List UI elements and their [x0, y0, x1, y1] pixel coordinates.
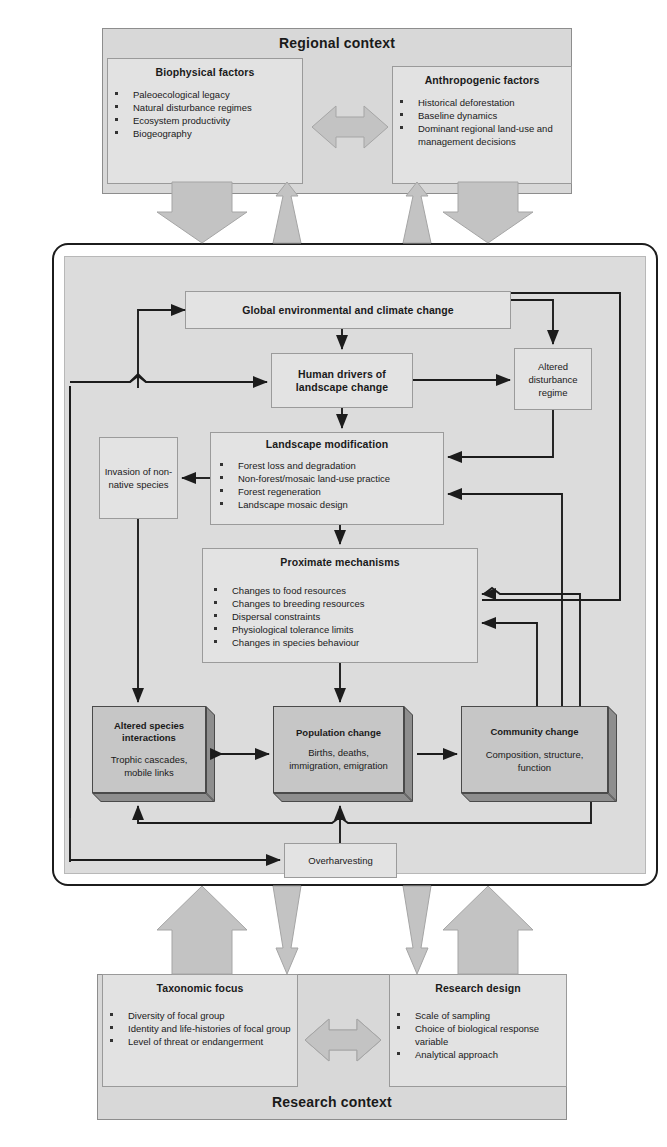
biophysical-factors-heading: Biophysical factors: [107, 66, 303, 79]
anthropogenic-factors-list: Historical deforestation Baseline dynami…: [392, 96, 574, 148]
list-item: Biogeography: [107, 127, 303, 140]
population-change-body: Births, deaths, immigration, emigration: [274, 746, 403, 772]
list-item: Non-forest/mosaic land-use practice: [212, 472, 444, 485]
global-change-box: Global environmental and climate change: [185, 291, 511, 329]
up-block-arrow-bottom-left: [157, 886, 247, 974]
invasion-label: Invasion of non-native species: [100, 465, 177, 491]
list-item: Ecosystem productivity: [107, 114, 303, 127]
landscape-modification-list: Forest loss and degradation Non-forest/m…: [212, 459, 444, 511]
box-bottom-shadow: [461, 793, 617, 802]
diagram-canvas: Regional context Biophysical factors Pal…: [0, 0, 667, 1147]
global-change-label: Global environmental and climate change: [242, 304, 454, 317]
overharvesting-box: Overharvesting: [284, 843, 397, 878]
biophysical-factors-list: Paleoecological legacy Natural disturban…: [107, 88, 303, 140]
research-context-title: Research context: [97, 1091, 567, 1113]
down-block-arrow-bottom-left: [273, 886, 301, 974]
overharvesting-label: Overharvesting: [308, 854, 372, 867]
altered-species-interactions-box: Altered species interactions Trophic cas…: [92, 706, 215, 802]
box-bottom-shadow: [92, 793, 215, 802]
list-item: Diversity of focal group: [102, 1009, 302, 1022]
list-item: Changes in species behaviour: [206, 636, 478, 649]
proximate-mechanisms-list: Changes to food resources Changes to bre…: [206, 584, 478, 649]
list-item: Historical deforestation: [392, 96, 574, 109]
proximate-mechanisms-heading: Proximate mechanisms: [202, 556, 478, 569]
altered-disturbance-label: Altered disturbance regime: [515, 360, 591, 399]
list-item: Forest loss and degradation: [212, 459, 444, 472]
up-block-arrow-bottom-right: [443, 886, 533, 974]
anthropogenic-factors-heading: Anthropogenic factors: [392, 74, 572, 87]
research-design-list: Scale of sampling Choice of biological r…: [389, 1009, 569, 1061]
human-drivers-box: Human drivers of landscape change: [271, 353, 413, 408]
research-design-heading: Research design: [389, 982, 567, 995]
list-item: Choice of biological response variable: [389, 1022, 569, 1048]
landscape-modification-heading: Landscape modification: [210, 438, 444, 451]
population-change-box: Population change Births, deaths, immigr…: [273, 706, 413, 802]
box-side-shadow: [404, 706, 413, 802]
list-item: Landscape mosaic design: [212, 498, 444, 511]
box-face: Community change Composition, structure,…: [461, 706, 608, 793]
list-item: Baseline dynamics: [392, 109, 574, 122]
community-change-box: Community change Composition, structure,…: [461, 706, 617, 802]
taxonomic-focus-list: Diversity of focal group Identity and li…: [102, 1009, 302, 1048]
community-change-body: Composition, structure, function: [462, 748, 607, 774]
altered-species-body: Trophic cascades, mobile links: [93, 753, 205, 779]
list-item: Dispersal constraints: [206, 610, 478, 623]
list-item: Paleoecological legacy: [107, 88, 303, 101]
box-face: Population change Births, deaths, immigr…: [273, 706, 404, 793]
list-item: Scale of sampling: [389, 1009, 569, 1022]
taxonomic-focus-heading: Taxonomic focus: [102, 982, 298, 995]
down-block-arrow-bottom-right: [403, 886, 431, 974]
invasion-box: Invasion of non-native species: [99, 437, 178, 519]
box-side-shadow: [608, 706, 617, 802]
community-change-heading: Community change: [484, 726, 584, 738]
altered-species-heading: Altered species interactions: [93, 720, 205, 744]
box-side-shadow: [206, 706, 215, 802]
regional-context-title: Regional context: [102, 33, 572, 53]
list-item: Changes to breeding resources: [206, 597, 478, 610]
human-drivers-label: Human drivers of landscape change: [272, 368, 412, 394]
list-item: Dominant regional land-use and managemen…: [392, 122, 574, 148]
list-item: Natural disturbance regimes: [107, 101, 303, 114]
population-change-heading: Population change: [290, 727, 387, 739]
box-face: Altered species interactions Trophic cas…: [92, 706, 206, 793]
box-bottom-shadow: [273, 793, 413, 802]
altered-disturbance-box: Altered disturbance regime: [514, 348, 592, 410]
list-item: Physiological tolerance limits: [206, 623, 478, 636]
list-item: Analytical approach: [389, 1048, 569, 1061]
list-item: Changes to food resources: [206, 584, 478, 597]
list-item: Identity and life-histories of focal gro…: [102, 1022, 302, 1035]
list-item: Forest regeneration: [212, 485, 444, 498]
list-item: Level of threat or endangerment: [102, 1035, 302, 1048]
